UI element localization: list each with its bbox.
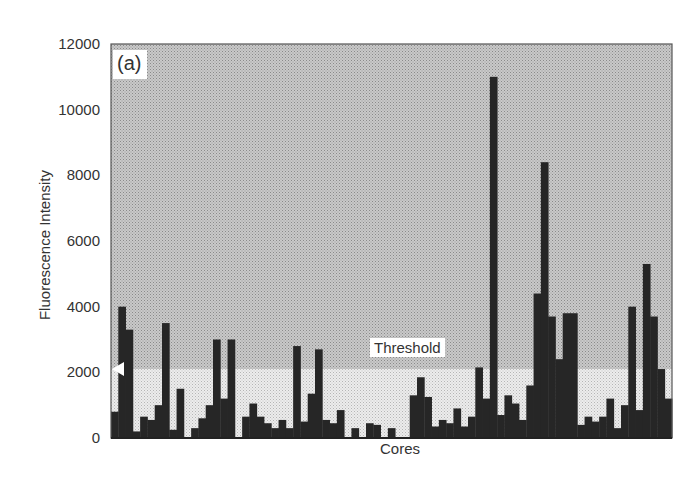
bar [220,399,228,438]
bar [373,425,381,438]
bar [526,385,534,438]
bar [162,323,170,438]
bar [650,317,658,438]
plot-background [111,44,672,438]
bar [614,428,622,438]
bar [315,349,323,438]
bar [424,397,432,438]
bar [643,264,651,438]
bar [585,417,593,438]
bar [665,399,673,438]
y-axis-label: Fluorescence Intensity [36,170,53,320]
bar [446,423,454,438]
chart-container: 020004000600080001000012000 Fluorescence… [0,0,700,481]
bar [548,317,556,438]
bar [257,417,265,438]
panel-label: (a) [113,50,147,79]
bar [279,420,287,438]
bar [577,425,585,438]
bar [636,410,644,438]
bar [249,404,257,438]
bar [271,428,279,438]
bar [286,428,294,438]
bar [140,417,148,438]
bar [191,428,199,438]
bar [155,405,163,438]
bar [504,395,512,438]
y-tick-label: 10000 [10,101,100,118]
bar [242,417,250,438]
bar [322,420,330,438]
bar [111,412,119,438]
bar [606,399,614,438]
bar [475,367,483,438]
bar [206,405,214,438]
bar [512,404,520,438]
bar [198,418,206,438]
bar [490,77,498,438]
bar [621,405,629,438]
y-tick-label: 2000 [10,363,100,380]
bar [570,313,578,438]
bar [213,340,221,439]
plot-area [0,0,700,481]
bar [177,389,185,438]
bar [519,420,527,438]
bar [555,359,563,438]
bar [410,395,418,438]
bar [351,428,359,438]
bar [147,420,155,438]
bar [468,417,476,438]
y-tick-label: 0 [10,429,100,446]
bar [534,294,542,438]
bar [337,410,345,438]
y-tick-label: 8000 [10,166,100,183]
bar [657,369,665,438]
bar [366,423,374,438]
bar [461,427,469,438]
bar [453,408,461,438]
bar [308,394,316,438]
y-tick-label: 6000 [10,232,100,249]
bar [388,428,396,438]
bar [330,423,338,438]
bar [628,307,636,438]
bar [483,399,491,438]
bar [432,427,440,438]
bar [300,422,308,438]
bar [417,377,425,438]
bar [497,415,505,438]
bar [293,346,301,438]
bar [126,330,134,438]
bar [169,430,177,438]
bar [264,423,272,438]
threshold-marker-icon [112,362,124,376]
bar [439,420,447,438]
bar [228,340,236,439]
x-axis-label: Cores [380,440,420,457]
y-tick-label: 12000 [10,35,100,52]
bar [563,313,571,438]
y-tick-label: 4000 [10,298,100,315]
bar [592,422,600,438]
threshold-label: Threshold [370,338,445,357]
above-threshold-region [111,44,672,369]
bar [599,417,607,438]
bar [541,162,549,438]
